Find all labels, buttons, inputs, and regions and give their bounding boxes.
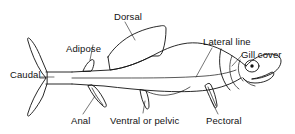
adipose-fin (83, 60, 94, 71)
leader-anal (83, 96, 95, 114)
gill-cover (220, 49, 230, 90)
lateral-line (72, 70, 236, 78)
dorsal-fin (108, 26, 166, 70)
label-gill-cover: Gill cover (241, 50, 282, 60)
leader-lateral-line (196, 48, 212, 77)
label-caudal: Caudal (10, 70, 41, 80)
mouth (243, 72, 274, 83)
anal-fin-inner-ray (92, 88, 103, 105)
label-adipose: Adipose (66, 44, 101, 54)
label-anal: Anal (71, 116, 90, 126)
fish-anatomy-figure: Dorsal Adipose Lateral line Gill cover C… (0, 0, 295, 134)
gill-cover-inner-arc (230, 56, 239, 89)
label-dorsal: Dorsal (114, 12, 142, 22)
label-lateral-line: Lateral line (203, 37, 251, 47)
anal-fin (88, 85, 106, 107)
eye-pupil (250, 64, 253, 67)
label-pectoral: Pectoral (206, 116, 242, 126)
leader-dorsal (125, 22, 135, 40)
ventral-pelvic-fin (140, 90, 149, 109)
fish-illustration (0, 0, 295, 134)
label-ventral-or-pelvic: Ventral or pelvic (110, 116, 179, 126)
